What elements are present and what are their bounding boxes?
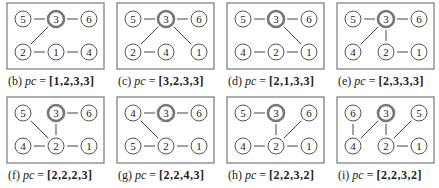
node-3: 3 (158, 11, 174, 27)
caption-tag: (b) (8, 74, 22, 88)
caption-var: pc (245, 74, 256, 88)
svg-text:4: 4 (350, 140, 356, 152)
svg-text:2: 2 (20, 46, 26, 58)
node-4: 4 (125, 105, 141, 121)
caption-var: pc (352, 168, 363, 182)
node-1: 1 (411, 44, 427, 60)
tree-graph-f: 536421 (6, 96, 106, 164)
caption-var: pc (134, 74, 145, 88)
svg-text:5: 5 (240, 107, 246, 119)
svg-text:3: 3 (273, 13, 279, 25)
edge-3-2 (31, 27, 48, 44)
svg-text:2: 2 (383, 46, 389, 58)
caption-tag: (f) (8, 168, 20, 182)
node-3: 3 (378, 11, 394, 27)
edge-3-1 (284, 27, 301, 44)
node-4: 4 (235, 44, 251, 60)
svg-text:6: 6 (86, 107, 92, 119)
node-5: 5 (235, 105, 251, 121)
edge-6-2 (284, 121, 301, 138)
svg-text:3: 3 (163, 107, 169, 119)
node-1: 1 (301, 44, 317, 60)
tree-graph-i: 635421 (336, 96, 436, 164)
node-4: 4 (345, 44, 361, 60)
edge-5-2 (394, 121, 411, 138)
node-3: 3 (158, 105, 174, 121)
node-5: 5 (15, 11, 31, 27)
node-3: 3 (378, 105, 394, 121)
caption-var: pc (25, 74, 36, 88)
node-6: 6 (81, 105, 97, 121)
svg-text:1: 1 (53, 46, 59, 58)
svg-text:5: 5 (416, 107, 422, 119)
node-6: 6 (191, 11, 207, 27)
node-2: 2 (48, 138, 64, 154)
edge-3-4 (361, 121, 378, 138)
caption-eq: = (149, 168, 156, 182)
caption-f: (f) pc = [2,2,2,3] (8, 168, 118, 183)
caption-tag: (g) (118, 168, 132, 182)
svg-text:3: 3 (53, 13, 59, 25)
node-6: 6 (301, 105, 317, 121)
caption-eq: = (367, 168, 374, 182)
caption-vector: [2,3,3,3] (378, 74, 424, 88)
svg-text:3: 3 (53, 107, 59, 119)
svg-text:6: 6 (416, 13, 422, 25)
node-2: 2 (125, 44, 141, 60)
svg-text:4: 4 (350, 46, 356, 58)
node-1: 1 (301, 138, 317, 154)
caption-vector: [1,2,3,3] (49, 74, 95, 88)
node-4: 4 (235, 138, 251, 154)
caption-vector: [3,2,3,3] (158, 74, 204, 88)
caption-tag: (i) (338, 168, 349, 182)
tree-graph-g: 436521 (116, 96, 216, 164)
svg-text:2: 2 (273, 46, 279, 58)
tree-graph-d: 536421 (226, 2, 326, 70)
caption-eq: = (259, 168, 266, 182)
edge-4-2 (141, 121, 158, 138)
svg-text:5: 5 (20, 13, 26, 25)
node-5: 5 (125, 11, 141, 27)
svg-text:2: 2 (273, 140, 279, 152)
svg-text:6: 6 (350, 107, 356, 119)
edge-3-4 (361, 27, 378, 44)
svg-text:5: 5 (130, 140, 136, 152)
svg-text:1: 1 (416, 140, 422, 152)
caption-eq: = (39, 74, 46, 88)
node-5: 5 (15, 105, 31, 121)
node-3: 3 (268, 11, 284, 27)
caption-tag: (c) (118, 74, 131, 88)
svg-text:6: 6 (306, 107, 312, 119)
node-5: 5 (235, 11, 251, 27)
caption-vector: [2,1,3,3] (269, 74, 315, 88)
node-2: 2 (268, 44, 284, 60)
svg-text:1: 1 (306, 140, 312, 152)
caption-var: pc (245, 168, 256, 182)
node-1: 1 (411, 138, 427, 154)
svg-text:1: 1 (416, 46, 422, 58)
panel-g: 436521 (g) pc = [2,2,4,3] (116, 96, 216, 188)
svg-text:4: 4 (130, 107, 136, 119)
svg-text:1: 1 (86, 140, 92, 152)
node-6: 6 (345, 105, 361, 121)
tree-graph-h: 536421 (226, 96, 326, 164)
svg-text:6: 6 (196, 107, 202, 119)
caption-tag: (d) (228, 74, 242, 88)
caption-vector: [2,2,3,2] (269, 168, 315, 182)
svg-text:3: 3 (273, 107, 279, 119)
caption-tag: (e) (338, 74, 351, 88)
caption-eq: = (369, 74, 376, 88)
node-2: 2 (268, 138, 284, 154)
svg-text:2: 2 (383, 140, 389, 152)
svg-text:4: 4 (163, 46, 169, 58)
svg-text:6: 6 (196, 13, 202, 25)
node-3: 3 (48, 11, 64, 27)
svg-text:6: 6 (86, 13, 92, 25)
edge-5-2 (31, 121, 48, 138)
node-2: 2 (378, 44, 394, 60)
caption-vector: [2,2,3,2] (376, 168, 422, 182)
svg-text:2: 2 (53, 140, 59, 152)
node-1: 1 (81, 138, 97, 154)
node-2: 2 (15, 44, 31, 60)
svg-text:2: 2 (130, 46, 136, 58)
